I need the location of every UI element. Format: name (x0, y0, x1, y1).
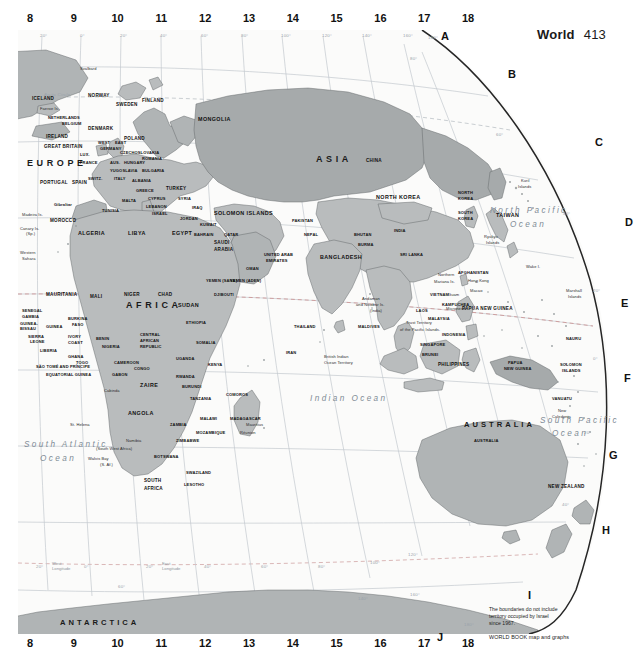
grid-index-top: 89101112131415161718 (0, 12, 639, 28)
grid-index-number-bottom: 17 (418, 637, 430, 649)
grid-row-letter-c: C (595, 136, 603, 148)
footnote-credit: WORLD BOOK map and graphs (489, 634, 609, 641)
grid-index-number-bottom: 13 (243, 637, 255, 649)
grid-index-number-top: 15 (330, 12, 342, 24)
grid-row-letter-g: G (609, 449, 618, 461)
grid-row-letter-a: A (441, 30, 449, 42)
grid-index-number-bottom: 12 (199, 637, 211, 649)
grid-index-number-bottom: 18 (462, 637, 474, 649)
grid-index-number-top: 12 (199, 12, 211, 24)
grid-index-number-bottom: 10 (111, 637, 123, 649)
grid-index-number-top: 11 (156, 12, 168, 24)
grid-index-number-top: 9 (71, 12, 77, 24)
grid-row-letter-j: J (437, 631, 443, 643)
globe-projection (18, 30, 620, 634)
grid-index-number-bottom: 14 (287, 637, 299, 649)
grid-row-letter-i: I (528, 589, 531, 601)
grid-row-letter-f: F (624, 372, 631, 384)
grid-index-number-top: 17 (418, 12, 430, 24)
grid-index-number-bottom: 15 (330, 637, 342, 649)
grid-index-number-top: 16 (374, 12, 386, 24)
grid-index-number-bottom: 8 (27, 637, 33, 649)
world-map: 20° 0° 20° 40° 60° 80° 100° 120° 140° 16… (18, 30, 620, 634)
grid-index-number-bottom: 11 (156, 637, 168, 649)
grid-index-number-top: 14 (287, 12, 299, 24)
grid-row-letter-b: B (508, 68, 516, 80)
grid-index-number-bottom: 16 (374, 637, 386, 649)
footnote-line-3: since 1967. (489, 620, 609, 627)
footnote: The boundaries do not include territory … (489, 606, 609, 641)
grid-row-letter-e: E (621, 297, 628, 309)
grid-index-number-top: 13 (243, 12, 255, 24)
grid-row-letter-d: D (625, 216, 633, 228)
grid-row-letter-h: H (602, 524, 610, 536)
grid-index-number-bottom: 9 (71, 637, 77, 649)
footnote-line-2: territory occupied by Israel (489, 613, 609, 620)
footnote-line-1: The boundaries do not include (489, 606, 609, 613)
grid-index-number-top: 10 (111, 12, 123, 24)
grid-index-number-top: 18 (462, 12, 474, 24)
atlas-page: World413 89101112131415161718 8910111213… (0, 0, 639, 670)
grid-index-number-top: 8 (27, 12, 33, 24)
